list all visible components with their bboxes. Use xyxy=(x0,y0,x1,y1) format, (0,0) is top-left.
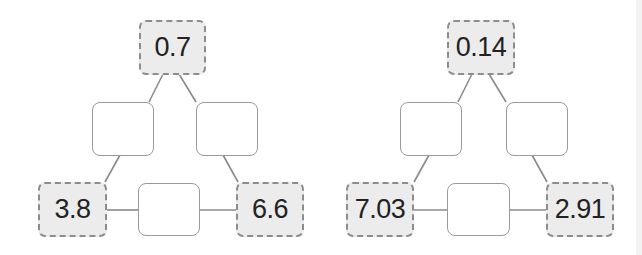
puzzle-2-bottom-left-value: 7.03 xyxy=(346,182,414,237)
puzzle-1-mid-right-answer-box[interactable] xyxy=(196,102,258,156)
puzzle-2-bottom-right-value: 2.91 xyxy=(546,182,614,237)
right-edge-strip xyxy=(636,0,642,255)
puzzle-1-bottom-left-value: 3.8 xyxy=(38,182,107,237)
puzzle-1-top-value: 0.7 xyxy=(139,20,206,75)
puzzle-2-top-value: 0.14 xyxy=(447,20,515,75)
puzzle-2-mid-right-answer-box[interactable] xyxy=(506,102,568,156)
puzzle-1-bottom-middle-answer-box[interactable] xyxy=(138,183,200,236)
triangle-puzzles: 0.7 3.8 6.6 0.14 7.03 2.91 xyxy=(0,0,642,255)
puzzle-1-bottom-right-value: 6.6 xyxy=(236,182,304,237)
puzzle-2-bottom-middle-answer-box[interactable] xyxy=(447,183,510,236)
puzzle-1-mid-left-answer-box[interactable] xyxy=(92,102,154,156)
puzzle-2-mid-left-answer-box[interactable] xyxy=(400,102,462,156)
